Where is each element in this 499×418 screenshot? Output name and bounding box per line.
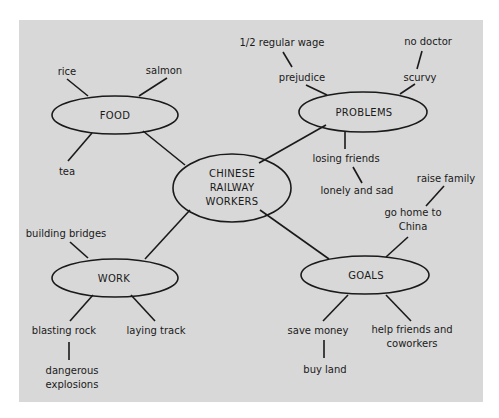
node-work-label: WORK bbox=[98, 273, 131, 284]
detail-help-2: coworkers bbox=[387, 338, 438, 349]
connector-work-blasting bbox=[70, 295, 93, 321]
connector-home-goals bbox=[386, 237, 408, 257]
connector-goals-help bbox=[386, 295, 411, 321]
detail-raise-family: raise family bbox=[417, 173, 476, 184]
detail-rice: rice bbox=[58, 66, 77, 77]
connector-wage-prejudice bbox=[283, 52, 292, 67]
connector-work-track bbox=[131, 295, 155, 321]
center-label-line-3: WORKERS bbox=[206, 196, 259, 207]
detail-building-bridges: building bridges bbox=[26, 228, 107, 239]
detail-salmon: salmon bbox=[146, 65, 182, 76]
concept-map: FOOD CHINESE RAILWAY WORKERS PROBLEMS WO… bbox=[0, 0, 499, 418]
detail-lonely: lonely and sad bbox=[321, 185, 394, 196]
detail-laying-track: laying track bbox=[127, 325, 186, 336]
detail-scurvy: scurvy bbox=[404, 72, 437, 83]
connector-family-home bbox=[426, 186, 444, 206]
connector-nodoctor-scurvy bbox=[417, 51, 422, 69]
connector-food-tea bbox=[68, 133, 92, 161]
detail-tea: tea bbox=[59, 166, 75, 177]
detail-help-1: help friends and bbox=[371, 324, 452, 335]
connector-bridges-work bbox=[70, 242, 88, 258]
detail-blasting-rock: blasting rock bbox=[32, 325, 97, 336]
detail-dangerous: dangerous bbox=[46, 365, 99, 376]
detail-half-wage: 1/2 regular wage bbox=[239, 37, 324, 48]
detail-go-home-2: China bbox=[399, 221, 428, 232]
connector-center-goals bbox=[260, 210, 329, 259]
connector-scurvy-problems bbox=[400, 84, 415, 94]
center-label-line-2: RAILWAY bbox=[210, 182, 255, 193]
connector-food-rice bbox=[67, 79, 88, 96]
center-label-line-1: CHINESE bbox=[209, 168, 255, 179]
connector-food-salmon bbox=[139, 78, 167, 96]
node-goals-label: GOALS bbox=[348, 270, 384, 281]
connector-center-work bbox=[145, 210, 190, 259]
detail-losing-friends: losing friends bbox=[312, 153, 379, 164]
detail-no-doctor: no doctor bbox=[404, 36, 453, 47]
connector-center-food bbox=[143, 131, 185, 165]
connector-losing-lonely bbox=[353, 167, 362, 183]
detail-go-home-1: go home to bbox=[384, 207, 441, 218]
node-problems-label: PROBLEMS bbox=[336, 107, 393, 118]
node-food-label: FOOD bbox=[100, 110, 130, 121]
detail-save-money: save money bbox=[288, 325, 349, 336]
connector-prejudice-problems bbox=[306, 85, 327, 95]
detail-explosions: explosions bbox=[46, 379, 99, 390]
detail-prejudice: prejudice bbox=[279, 72, 325, 83]
connector-goals-money bbox=[323, 295, 348, 321]
detail-buy-land: buy land bbox=[303, 364, 346, 375]
